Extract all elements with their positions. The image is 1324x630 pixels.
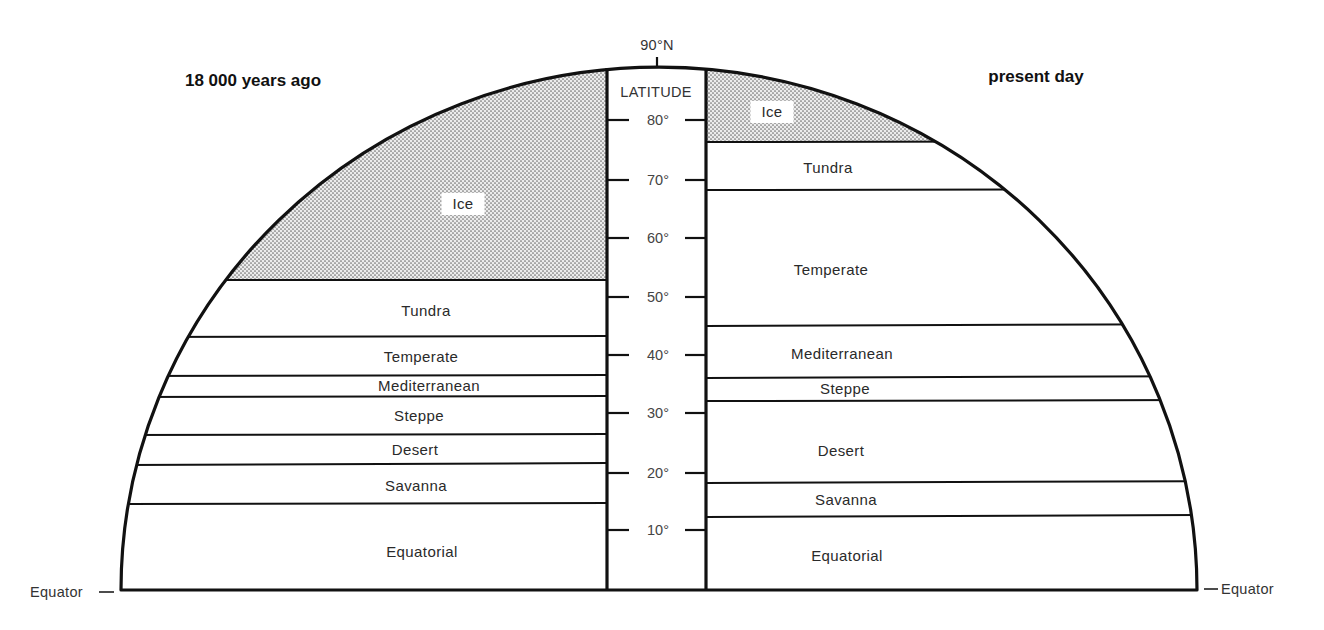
- left-zone-label-temperate: Temperate: [384, 348, 458, 365]
- latitude-axis-title: LATITUDE: [620, 84, 691, 100]
- right-zone-labels: IceTundraTemperateMediterraneanSteppeDes…: [751, 101, 893, 564]
- left-zone-label-tundra: Tundra: [401, 302, 451, 319]
- tick-label-10: 10°: [647, 522, 669, 538]
- right-zone-label-savanna: Savanna: [815, 491, 877, 508]
- title-present-day: present day: [988, 67, 1084, 86]
- tick-label-60: 60°: [647, 230, 669, 246]
- pole-label-90n: 90°N: [640, 37, 674, 53]
- left-zone-label-ice: Ice: [452, 195, 473, 212]
- right-zone-label-mediterranean: Mediterranean: [791, 345, 893, 362]
- right-zone-label-equatorial: Equatorial: [811, 547, 883, 564]
- right-zone-label-ice: Ice: [761, 103, 782, 120]
- climate-zone-diagram: 18 000 years ago present day 90°N: [0, 0, 1324, 630]
- right-zone-label-steppe: Steppe: [820, 380, 870, 397]
- right-zone-label-tundra: Tundra: [803, 159, 853, 176]
- tick-label-70: 70°: [647, 172, 669, 188]
- tick-label-50: 50°: [647, 289, 669, 305]
- tick-label-40: 40°: [647, 347, 669, 363]
- left-zone-label-savanna: Savanna: [385, 477, 447, 494]
- equator-label-right: Equator: [1221, 581, 1274, 597]
- right-zone-label-temperate: Temperate: [794, 261, 868, 278]
- equator-label-left: Equator: [30, 584, 83, 600]
- right-zone-label-desert: Desert: [818, 442, 865, 459]
- tick-label-20: 20°: [647, 465, 669, 481]
- title-18000-years-ago: 18 000 years ago: [185, 71, 321, 90]
- right-ice-zone: [706, 40, 1226, 142]
- left-zone-label-equatorial: Equatorial: [386, 543, 458, 560]
- tick-label-80: 80°: [647, 112, 669, 128]
- left-zone-label-mediterranean: Mediterranean: [378, 377, 480, 394]
- left-zone-label-desert: Desert: [392, 441, 439, 458]
- tick-label-30: 30°: [647, 405, 669, 421]
- left-zone-label-steppe: Steppe: [394, 407, 444, 424]
- left-band-lines: [100, 280, 607, 504]
- right-band-lines: [706, 141, 1226, 517]
